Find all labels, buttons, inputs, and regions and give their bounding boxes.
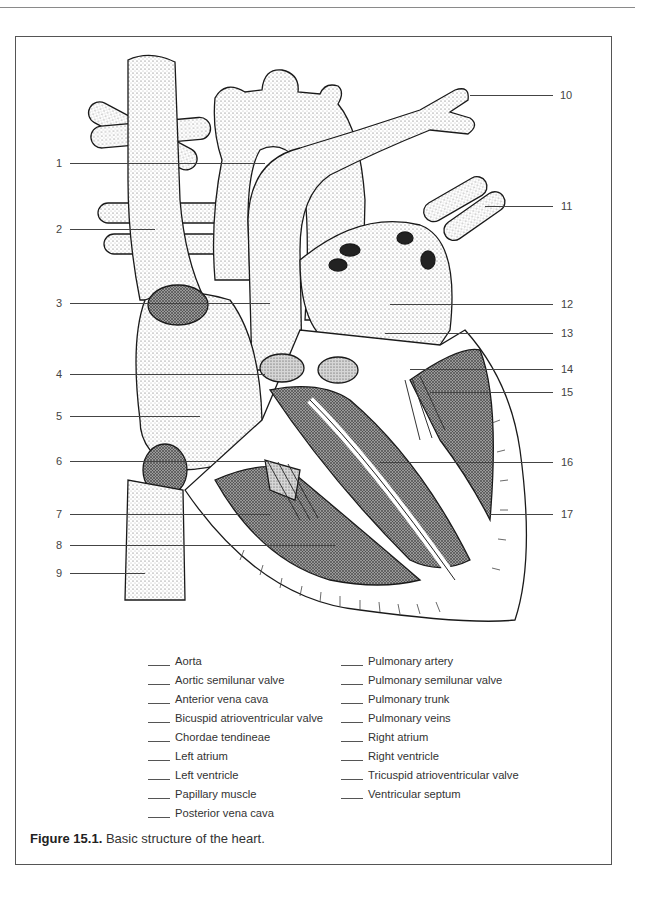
- anterior-vena-cava: [128, 55, 205, 300]
- legend-item: Right ventricle: [341, 746, 519, 765]
- callout-number-1: 1: [56, 157, 62, 169]
- answer-blank[interactable]: [341, 732, 363, 742]
- legend-item: Tricuspid atrioventricular valve: [341, 765, 519, 784]
- leader-line-12: [390, 304, 553, 305]
- answer-blank[interactable]: [148, 770, 170, 780]
- legend-item: Right atrium: [341, 728, 519, 747]
- legend-item: Pulmonary semilunar valve: [341, 671, 519, 690]
- answer-blank[interactable]: [148, 675, 170, 685]
- legend-item: Pulmonary artery: [341, 652, 519, 671]
- legend-item: Anterior vena cava: [148, 690, 323, 709]
- callout-number-10: 10: [560, 89, 572, 101]
- answer-blank[interactable]: [148, 713, 170, 723]
- leader-line-16: [380, 462, 553, 463]
- leader-line-10: [470, 95, 553, 96]
- callout-number-4: 4: [56, 368, 62, 380]
- answer-blank[interactable]: [148, 656, 170, 666]
- legend-item: Bicuspid atrioventricular valve: [148, 709, 323, 728]
- answer-blank[interactable]: [341, 675, 363, 685]
- leader-line-13: [385, 333, 553, 334]
- callout-number-3: 3: [56, 297, 62, 309]
- leader-line-1: [70, 163, 265, 164]
- leader-line-5: [70, 416, 200, 417]
- callout-number-17: 17: [561, 508, 573, 520]
- leader-line-11: [485, 206, 553, 207]
- callout-number-13: 13: [561, 327, 573, 339]
- answer-blank[interactable]: [148, 808, 170, 818]
- leader-line-15: [430, 392, 553, 393]
- posterior-vena-cava: [125, 480, 185, 600]
- leader-line-3: [70, 303, 270, 304]
- legend-item: Aortic semilunar valve: [148, 671, 323, 690]
- answer-blank[interactable]: [341, 789, 363, 799]
- heart-diagram: [0, 0, 647, 640]
- callout-number-11: 11: [561, 200, 572, 212]
- leader-line-6: [70, 461, 270, 462]
- callout-number-5: 5: [56, 410, 62, 422]
- legend-column-left: Aorta Aortic semilunar valve Anterior ve…: [148, 652, 323, 822]
- callout-number-15: 15: [561, 386, 573, 398]
- legend-item: Chordae tendineae: [148, 728, 323, 747]
- answer-blank[interactable]: [341, 770, 363, 780]
- leader-line-8: [70, 545, 335, 546]
- callout-number-9: 9: [56, 567, 62, 579]
- callout-number-12: 12: [561, 298, 573, 310]
- legend-item: Ventricular septum: [341, 784, 519, 803]
- figure-caption-text: Basic structure of the heart.: [106, 831, 265, 846]
- legend-item: Pulmonary veins: [341, 709, 519, 728]
- answer-blank[interactable]: [341, 713, 363, 723]
- callout-number-6: 6: [56, 455, 62, 467]
- answer-blank[interactable]: [148, 732, 170, 742]
- legend-item: Left ventricle: [148, 765, 323, 784]
- legend-column-right: Pulmonary artery Pulmonary semilunar val…: [341, 652, 519, 803]
- leader-line-9: [70, 573, 145, 574]
- answer-blank[interactable]: [341, 751, 363, 761]
- leader-line-17: [490, 514, 553, 515]
- legend-item: Papillary muscle: [148, 784, 323, 803]
- leader-line-7: [70, 514, 270, 515]
- answer-blank[interactable]: [148, 694, 170, 704]
- figure-caption: Figure 15.1. Basic structure of the hear…: [30, 831, 265, 846]
- leader-line-2: [70, 229, 155, 230]
- callout-number-2: 2: [56, 223, 62, 235]
- legend-item: Posterior vena cava: [148, 803, 323, 822]
- leader-line-14: [410, 369, 553, 370]
- answer-blank[interactable]: [148, 789, 170, 799]
- answer-blank[interactable]: [341, 694, 363, 704]
- legend-item: Pulmonary trunk: [341, 690, 519, 709]
- callout-number-16: 16: [561, 456, 573, 468]
- callout-number-8: 8: [56, 539, 62, 551]
- aortic-valve: [260, 354, 304, 382]
- callout-number-14: 14: [561, 363, 573, 375]
- callout-number-7: 7: [56, 508, 62, 520]
- figure-number: Figure 15.1.: [30, 831, 102, 846]
- legend-item: Left atrium: [148, 746, 323, 765]
- answer-blank[interactable]: [148, 751, 170, 761]
- answer-blank[interactable]: [341, 656, 363, 666]
- leader-line-4: [70, 374, 265, 375]
- legend-item: Aorta: [148, 652, 323, 671]
- pulmonary-valve: [318, 357, 358, 383]
